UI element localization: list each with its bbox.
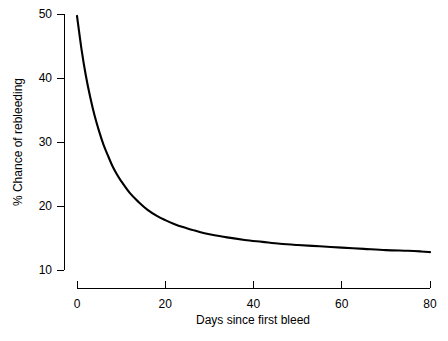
chart-figure: 1020304050 020406080 % Chance of rebleed…: [0, 0, 448, 341]
x-tick-label: 60: [335, 297, 349, 311]
x-tick-label: 0: [74, 297, 81, 311]
x-tick-labels: 020406080: [74, 297, 437, 311]
x-axis-title: Days since first bleed: [196, 313, 310, 327]
y-tick-label: 30: [39, 135, 53, 149]
data-series-line: [77, 16, 430, 252]
y-tick-label: 20: [39, 199, 53, 213]
y-tick-label: 40: [39, 71, 53, 85]
y-tick-label: 10: [39, 263, 53, 277]
x-axis: [77, 281, 430, 288]
y-tick-labels: 1020304050: [39, 7, 53, 277]
y-axis-title: % Chance of rebleeding: [11, 78, 25, 206]
x-tick-label: 40: [247, 297, 261, 311]
x-tick-label: 80: [423, 297, 437, 311]
x-tick-label: 20: [159, 297, 173, 311]
line-chart-canvas: 1020304050 020406080 % Chance of rebleed…: [0, 0, 448, 341]
y-tick-label: 50: [39, 7, 53, 21]
y-axis: [57, 14, 64, 270]
